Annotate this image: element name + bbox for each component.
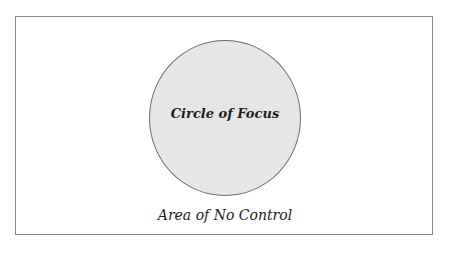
- area-of-no-control-label: Area of No Control: [0, 207, 450, 223]
- circle-of-focus-label: Circle of Focus: [149, 106, 301, 121]
